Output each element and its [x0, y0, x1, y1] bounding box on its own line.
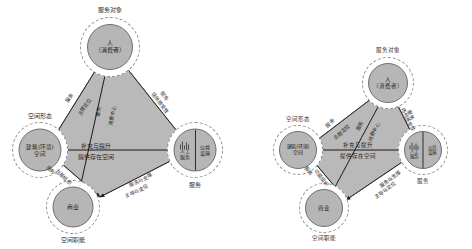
node-disc: 商业 [305, 189, 343, 227]
node-disc: 人 （消费者） [368, 63, 408, 103]
node-half-public-facility: 公共 设施 [423, 132, 441, 168]
node-caption: 空间职能 [312, 234, 336, 242]
node-half-public-facility: 公共 设施 [195, 130, 216, 171]
node-caption: 空间职能 [61, 235, 85, 244]
edge-label-space-service-2: 提供存在空间 [340, 152, 376, 160]
node-disc: 人 （消费者） [87, 24, 133, 70]
edge-label-space-service-1: 补充与提升 [81, 141, 111, 150]
node-label: 商业 [67, 204, 79, 211]
node-label-left: 人工 服务 [410, 149, 418, 159]
node-disc: 建筑(环境) 空间 [19, 129, 62, 172]
node-disc: 建筑(环境) 空间 [279, 131, 317, 169]
node-label: 人 （消费者） [95, 40, 124, 53]
node-disc: 商业 [53, 187, 94, 228]
diagram-edges [236, 0, 472, 249]
node-caption: 服务对象 [376, 46, 400, 54]
node-label-left: 人工 服务 [180, 148, 190, 159]
node-label: 商业 [318, 205, 330, 211]
node-disc: 人工 服务 公共 设施 [404, 131, 442, 169]
diagram-stage: 人 （消费者） 服务对象 建筑(环境) 空间 空间形态 [236, 0, 472, 249]
node-caption: 空间形态 [28, 111, 52, 120]
node-caption: 服务 [189, 180, 201, 189]
edge-label-space-service-2: 提供存在空间 [78, 152, 114, 161]
node-label-right: 公共 设施 [200, 144, 210, 155]
node-label-right: 公共 设施 [428, 145, 436, 155]
diagram-stage: 人 （消费者） 服务对象 建筑(环境) 空间 空间形态 [0, 0, 236, 249]
node-caption: 服务对象 [98, 5, 122, 14]
node-label: 建筑(环境) 空间 [26, 144, 53, 156]
node-caption: 空间形态 [286, 115, 310, 123]
relationship-diagram-right: 人 （消费者） 服务对象 建筑(环境) 空间 空间形态 [236, 0, 472, 249]
node-disc: 人工 服务 公共 设施 [174, 129, 217, 172]
relationship-diagram-left: 人 （消费者） 服务对象 建筑(环境) 空间 空间形态 [0, 0, 236, 249]
node-caption: 服务 [417, 177, 429, 185]
node-half-manual-service: 人工 服务 [175, 130, 196, 171]
node-half-manual-service: 人工 服务 [405, 132, 423, 168]
node-label: 人 （消费者） [373, 77, 402, 89]
node-label: 建筑(环境) 空间 [287, 144, 310, 155]
edge-label-space-service-1: 补充与提升 [343, 141, 373, 149]
figure-canvas: 人 （消费者） 服务对象 建筑(环境) 空间 空间形态 [0, 0, 472, 249]
